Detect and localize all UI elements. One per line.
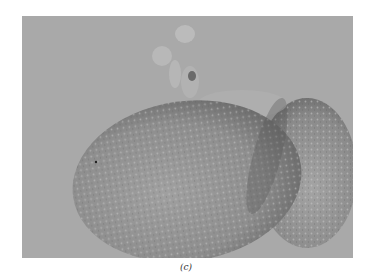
figure-caption: (c) [0, 262, 372, 272]
micrograph-image [22, 16, 353, 258]
